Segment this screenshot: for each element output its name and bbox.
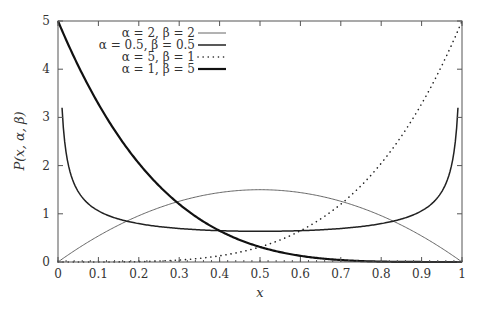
y-tick-label: 3 <box>42 110 50 124</box>
y-tick-label: 1 <box>42 207 50 221</box>
series-line-1 <box>62 108 458 232</box>
x-tick-label: 0.2 <box>129 267 148 281</box>
plot-frame <box>58 21 462 262</box>
plot-lines <box>58 21 462 262</box>
y-axis-label: P(x, α, β) <box>12 111 27 171</box>
series-line-2 <box>58 21 462 262</box>
x-tick-label: 0.6 <box>291 267 310 281</box>
y-tick-label: 0 <box>42 255 50 269</box>
x-tick-label: 0.7 <box>331 267 350 281</box>
y-tick-label: 4 <box>42 62 50 76</box>
x-tick-label: 0.1 <box>89 267 108 281</box>
x-tick-label: 1 <box>458 267 466 281</box>
x-tick-label: 0.5 <box>250 267 269 281</box>
legend: α = 2, β = 2α = 0.5, β = 0.5α = 5, β = 1… <box>99 26 226 76</box>
x-tick-label: 0.9 <box>412 267 431 281</box>
series-line-0 <box>58 190 462 262</box>
x-tick-label: 0.4 <box>210 267 229 281</box>
legend-label: α = 1, β = 5 <box>122 62 195 76</box>
x-tick-label: 0.8 <box>372 267 391 281</box>
axis-ticks <box>58 21 462 262</box>
x-tick-label: 0 <box>54 267 62 281</box>
y-tick-label: 2 <box>42 159 50 173</box>
tick-labels: 00.10.20.30.40.50.60.70.80.91012345 <box>42 14 465 281</box>
x-tick-label: 0.3 <box>170 267 189 281</box>
beta-distribution-chart: 00.10.20.30.40.50.60.70.80.91012345 x P(… <box>0 0 481 310</box>
y-tick-label: 5 <box>42 14 50 28</box>
x-axis-label: x <box>256 285 264 300</box>
series-line-3 <box>58 21 462 262</box>
